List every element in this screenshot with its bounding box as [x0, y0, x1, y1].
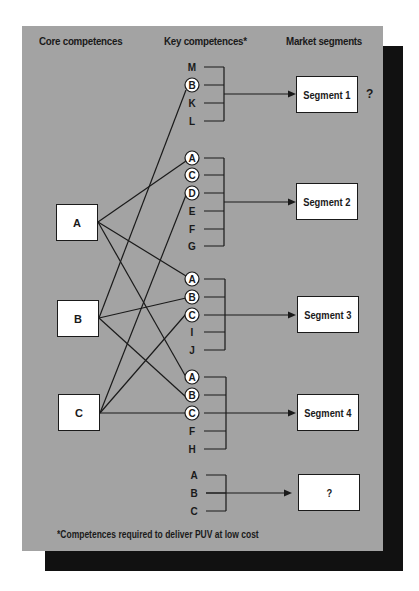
segment-label: Segment 2 [303, 196, 350, 208]
bracket-segment-1 [204, 67, 224, 121]
link-A-seg3-A [98, 222, 186, 276]
key-item: M [188, 62, 196, 73]
core-box-b: B [57, 300, 99, 337]
key-item: C [188, 170, 195, 181]
key-item: C [188, 310, 195, 321]
key-item: C [190, 506, 197, 517]
segment-box-4: Segment 4 [297, 394, 359, 431]
key-item: B [188, 292, 195, 303]
link-C-seg3-C [100, 314, 186, 413]
core-box-label: C [75, 407, 83, 419]
segment-label: Segment 1 [303, 89, 350, 101]
key-item: A [188, 372, 195, 383]
bracket-segment-4 [204, 377, 226, 449]
key-item: B [188, 80, 195, 91]
core-box-label: A [73, 217, 81, 229]
segment-1-question: ? [366, 87, 373, 101]
key-item: A [188, 153, 195, 164]
key-item: D [188, 188, 195, 199]
key-item: J [189, 345, 195, 356]
link-B-seg1-B [99, 90, 186, 318]
key-item: F [189, 426, 195, 437]
key-item: B [188, 390, 195, 401]
segment-box-3: Segment 3 [297, 296, 359, 333]
footnote: *Competences required to deliver PUV at … [57, 529, 259, 540]
link-C-seg2-D [100, 195, 186, 413]
arrow-icon [288, 410, 296, 417]
core-box-c: C [58, 394, 100, 431]
segment-label: ? [326, 487, 332, 499]
segment-box-2: Segment 2 [296, 183, 358, 220]
segment-box-1: Segment 1 [296, 76, 358, 113]
key-item: G [188, 241, 196, 252]
key-item: K [188, 98, 196, 109]
segment-label: Segment 4 [304, 407, 351, 419]
arrow-icon [288, 91, 296, 98]
segment-box-unknown: ? [298, 474, 360, 511]
link-A-seg4-A [98, 222, 186, 377]
key-item: C [188, 408, 195, 419]
key-item: B [190, 488, 197, 499]
bracket-segment-2 [204, 158, 224, 246]
core-box-a: A [56, 204, 98, 241]
key-item: E [189, 206, 196, 217]
key-item: H [188, 444, 195, 455]
key-item: F [189, 224, 195, 235]
arrow-icon [284, 490, 292, 497]
arrow-icon [288, 199, 296, 206]
key-item: A [190, 470, 197, 481]
key-item: L [189, 116, 195, 127]
key-item: A [188, 274, 195, 285]
core-box-label: B [74, 313, 82, 325]
bracket-segment-3 [204, 279, 225, 350]
link-A-seg2-A [98, 161, 186, 222]
segment-label: Segment 3 [304, 309, 351, 321]
arrow-icon [288, 312, 296, 319]
key-item: I [191, 327, 194, 338]
